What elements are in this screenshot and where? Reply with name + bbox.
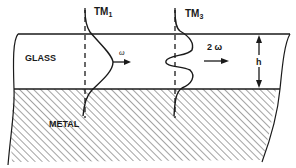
waveguide-diagram: TM1 TM3 GLASS METAL ω 2 ω h [0,0,296,168]
h-arrow-up-icon [256,35,262,43]
glass-label: GLASS [25,53,56,63]
omega-arrowhead-icon [124,59,131,65]
tm3-label: TM3 [185,8,203,20]
h-arrow-down-icon [256,80,262,88]
two-omega-label: 2 ω [207,42,223,52]
tm1-label: TM1 [94,6,112,18]
h-label: h [256,57,262,67]
metal-label: METAL [49,119,80,129]
two-omega-arrowhead-icon [221,58,229,64]
omega-label: ω [119,48,125,57]
